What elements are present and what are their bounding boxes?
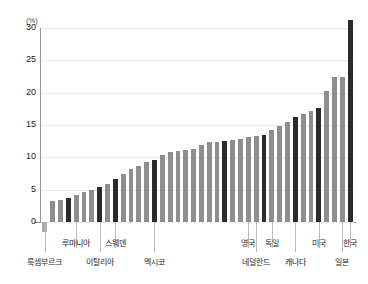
x-axis-label: 한국 — [343, 237, 357, 248]
x-axis-label: 캐나다 — [285, 256, 306, 267]
gridline — [41, 93, 354, 94]
bar — [230, 140, 235, 222]
bar — [66, 198, 71, 222]
bar — [105, 184, 110, 222]
bar — [207, 142, 212, 222]
y-axis-tick-label: 10 — [0, 151, 36, 161]
bar — [191, 149, 196, 222]
bar — [222, 141, 227, 222]
x-axis-tick-mark — [45, 222, 46, 252]
gridline — [41, 60, 354, 61]
x-axis-tick-mark — [154, 222, 155, 252]
plot-area — [41, 28, 354, 222]
chart-container: (%) 302520151050룩셈부르크루마니아이탈리아스웨덴멕시코영국네덜란… — [0, 0, 368, 284]
x-axis-label: 루마니아 — [62, 237, 90, 248]
y-axis-tick-label: 25 — [0, 54, 36, 64]
bar — [129, 169, 134, 222]
bar — [121, 174, 126, 223]
x-axis-label: 네덜란드 — [242, 256, 270, 267]
bar — [136, 166, 141, 222]
bar — [82, 192, 87, 222]
x-axis-label: 멕시코 — [144, 256, 165, 267]
y-axis-tick-label: 0 — [0, 216, 36, 226]
bar — [277, 126, 282, 222]
x-axis-label: 스웨덴 — [105, 237, 126, 248]
gridline — [41, 157, 354, 158]
bar — [348, 20, 353, 222]
x-axis-tick-mark — [256, 222, 257, 252]
x-axis-label: 독일 — [265, 237, 279, 248]
bar — [309, 111, 314, 222]
x-axis-tick-mark — [100, 222, 101, 252]
bar — [238, 139, 243, 222]
bar — [152, 160, 157, 222]
bar — [50, 201, 55, 222]
bar — [332, 77, 337, 222]
x-axis-label: 일본 — [335, 256, 349, 267]
bar — [316, 108, 321, 222]
bar — [285, 122, 290, 222]
y-axis-tick-label: 5 — [0, 184, 36, 194]
bar — [340, 77, 345, 223]
x-axis-label: 이탈리아 — [86, 256, 114, 267]
bar — [97, 187, 102, 222]
bar — [113, 179, 118, 222]
bar — [89, 190, 94, 222]
bar — [176, 151, 181, 222]
bar — [262, 135, 267, 222]
bar — [254, 136, 259, 222]
bar — [293, 117, 298, 222]
gridline — [41, 28, 354, 29]
bar — [144, 162, 149, 222]
bar — [168, 152, 173, 222]
bar — [301, 114, 306, 222]
y-axis-tick-label: 30 — [0, 22, 36, 32]
bar — [58, 200, 63, 222]
x-axis-label: 룩셈부르크 — [27, 256, 62, 267]
bar — [160, 155, 165, 222]
x-axis-label: 영국 — [241, 237, 255, 248]
bar — [246, 137, 251, 222]
y-axis-tick-label: 15 — [0, 119, 36, 129]
bar — [199, 145, 204, 222]
y-axis-tick-label: 20 — [0, 87, 36, 97]
bar — [269, 130, 274, 222]
bar — [324, 91, 329, 222]
bar — [183, 150, 188, 222]
gridline — [41, 190, 354, 191]
x-axis-tick-mark — [295, 222, 296, 252]
gridline — [41, 125, 354, 126]
x-axis-label: 미국 — [312, 237, 326, 248]
bar — [215, 142, 220, 222]
bar — [74, 195, 79, 222]
